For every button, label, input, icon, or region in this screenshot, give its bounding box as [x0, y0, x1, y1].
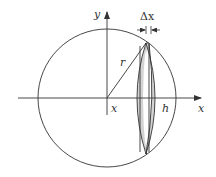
- y-axis-label: y: [93, 8, 101, 21]
- diagram-figure: y Δx r x h x: [0, 0, 216, 177]
- delta-x-label: Δx: [140, 10, 155, 23]
- radius-label: r: [120, 56, 126, 69]
- x-axis-label: x: [198, 102, 205, 115]
- cap-height-label: h: [162, 102, 169, 115]
- x-position-label: x: [111, 102, 118, 115]
